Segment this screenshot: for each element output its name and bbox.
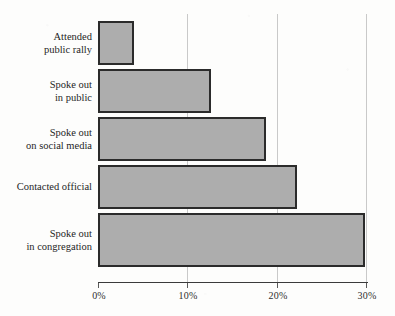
x-tick-label-20: 20% [269,290,288,301]
bar-chart: 0% 10% 20% 30% Attended public rally Spo… [0,0,395,316]
category-label-spoke-out-in-congregation: Spoke out in congregation [26,228,92,253]
bar-row [98,21,367,65]
bar-spoke-out-in-congregation[interactable] [98,213,365,267]
bar-row [98,69,367,113]
x-axis-tick-30 [366,283,367,288]
bar-row [98,117,367,161]
bar-spoke-out-in-public[interactable] [98,69,211,113]
category-label-attended-public-rally: Attended public rally [44,31,92,56]
category-label-contacted-official: Contacted official [17,181,92,194]
x-axis-line [98,282,368,283]
x-tick-label-10: 10% [179,290,198,301]
category-label-spoke-out-on-social-media: Spoke out on social media [26,127,92,152]
bar-row [98,165,367,209]
bar-row [98,213,367,267]
bar-attended-public-rally[interactable] [98,21,134,65]
x-axis-tick-10 [187,283,188,288]
bar-spoke-out-on-social-media[interactable] [98,117,266,161]
x-axis-tick-20 [277,283,278,288]
x-tick-label-0: 0% [92,290,106,301]
plot-area [98,14,367,282]
category-label-spoke-out-in-public: Spoke out in public [50,79,92,104]
x-axis-tick-0 [98,283,99,288]
bar-contacted-official[interactable] [98,165,297,209]
x-tick-label-30: 30% [358,290,377,301]
